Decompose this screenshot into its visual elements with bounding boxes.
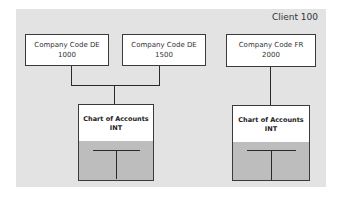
chart-of-accounts-title: Chart of Accounts	[233, 116, 309, 125]
client-label: Client 100	[266, 12, 318, 22]
chart-of-accounts-left: Chart of Accounts INT	[78, 104, 154, 181]
t-account-icon-stem	[116, 150, 117, 179]
connector-horizontal	[71, 85, 160, 86]
connector-de1000-down	[71, 66, 72, 86]
chart-of-accounts-title: Chart of Accounts	[79, 115, 153, 124]
company-code-title: Company Code FR	[227, 40, 315, 50]
t-account-icon-stem	[271, 150, 272, 180]
connector-fr2000-down	[270, 67, 271, 106]
company-code-number: 1000	[26, 50, 108, 60]
chart-of-accounts-header: Chart of Accounts INT	[233, 106, 309, 142]
company-code-number: 1500	[123, 50, 205, 60]
chart-of-accounts-name: INT	[233, 125, 309, 134]
company-code-fr-2000: Company Code FR 2000	[226, 34, 316, 67]
chart-of-accounts-name: INT	[79, 124, 153, 133]
chart-of-accounts-right: Chart of Accounts INT	[232, 105, 310, 181]
chart-of-accounts-header: Chart of Accounts INT	[79, 105, 153, 141]
company-code-de-1000: Company Code DE 1000	[25, 34, 109, 66]
company-code-de-1500: Company Code DE 1500	[122, 34, 206, 66]
company-code-title: Company Code DE	[26, 40, 108, 50]
connector-de1500-down	[159, 66, 160, 86]
company-code-title: Company Code DE	[123, 40, 205, 50]
connector-to-chart-left	[114, 85, 115, 105]
company-code-number: 2000	[227, 50, 315, 60]
